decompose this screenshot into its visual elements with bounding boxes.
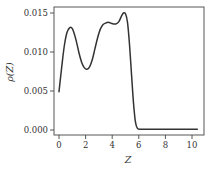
x-tick-label: 8 <box>163 140 168 150</box>
x-tick-label: 4 <box>109 140 114 150</box>
density-curve <box>59 13 197 130</box>
y-tick-label: 0.010 <box>24 47 48 57</box>
x-axis-label: Z <box>124 154 132 165</box>
y-tick-label: 0.005 <box>24 86 48 96</box>
x-tick-label: 10 <box>187 140 198 150</box>
y-axis-ticks: 0.0000.0050.0100.015 <box>24 8 54 135</box>
density-chart: 0.0000.0050.0100.015 0246810 Z ρ(Z) <box>0 0 217 170</box>
x-tick-label: 0 <box>56 140 61 150</box>
y-axis-label: ρ(Z) <box>4 62 15 83</box>
x-tick-label: 6 <box>136 140 141 150</box>
x-axis-ticks: 0246810 <box>56 135 197 150</box>
axes-box <box>54 7 204 135</box>
plot-frame <box>54 7 204 135</box>
x-tick-label: 2 <box>83 140 88 150</box>
y-tick-label: 0.015 <box>24 8 48 18</box>
y-tick-label: 0.000 <box>24 125 48 135</box>
